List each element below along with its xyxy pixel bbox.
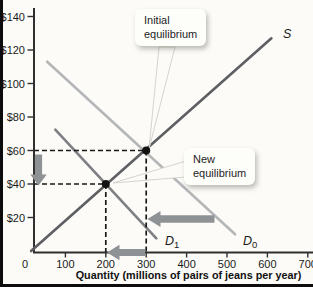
x-axis-title: Quantity (millions of pairs of jeans per… (64, 269, 313, 281)
curve-label-demand-new: D1 (165, 234, 179, 250)
initial-equilibrium-label-line2: equilibrium (144, 27, 197, 41)
initial-equilibrium-callout: Initial equilibrium (135, 9, 206, 46)
y-tick-label-60: $60 (7, 145, 25, 157)
supply-demand-figure: $20$40$60$80$100$120$1400100200300400500… (0, 0, 313, 287)
initial-equilibrium-point (142, 147, 150, 155)
y-tick-label-40: $40 (7, 178, 25, 190)
curve-label-supply: S (283, 27, 292, 41)
y-tick-label-80: $80 (7, 111, 25, 123)
price-decrease-arrow (30, 155, 46, 186)
y-tick-label-140: $140 (1, 11, 25, 23)
y-tick-label-120: $120 (1, 44, 25, 56)
scan-border-left (0, 0, 3, 287)
demand-shift-arrow (148, 211, 215, 227)
new-equilibrium-label-line1: New (193, 152, 246, 166)
x-tick-label-0: 0 (22, 258, 28, 270)
y-tick-label-100: $100 (1, 78, 25, 90)
new-equilibrium-label-line2: equilibrium (193, 166, 246, 180)
y-tick-label-20: $20 (7, 212, 25, 224)
initial-equilibrium-label-line1: Initial (144, 13, 197, 27)
new-equilibrium-callout: New equilibrium (184, 148, 255, 185)
curve-label-demand-initial: D0 (243, 234, 257, 250)
new-equilibrium-point (102, 180, 110, 188)
